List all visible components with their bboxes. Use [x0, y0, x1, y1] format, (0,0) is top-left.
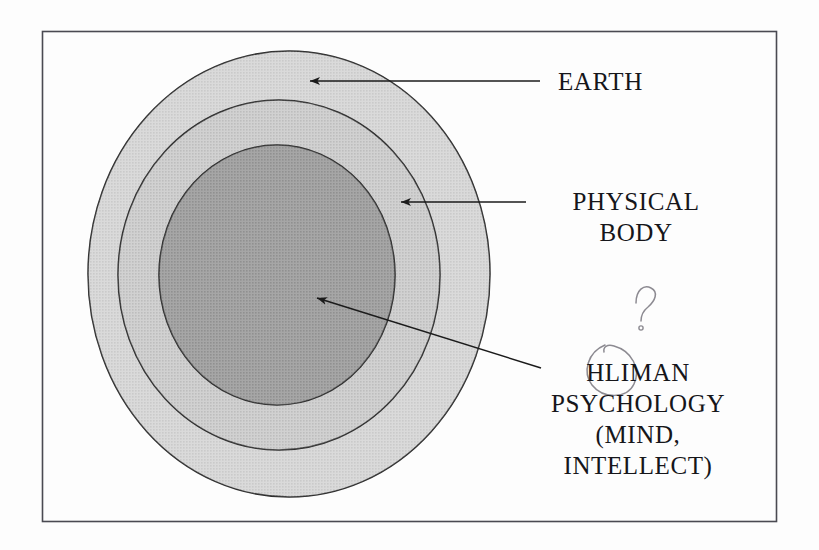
label-human-psychology-line3: (MIND, — [540, 419, 736, 450]
label-human-psychology: HLIMAN PSYCHOLOGY (MIND, INTELLECT) — [540, 357, 736, 481]
label-human-psychology-line2: PSYCHOLOGY — [540, 388, 736, 419]
figure-page: EARTH PHYSICAL BODY HLIMAN PSYCHOLOGY (M… — [0, 0, 819, 550]
label-physical-body: PHYSICAL BODY — [551, 186, 721, 248]
handwritten-question-dot-icon — [639, 326, 643, 330]
label-human-psychology-line1: HLIMAN — [540, 357, 736, 388]
human-psychology-ellipse-texture — [159, 145, 395, 405]
handwritten-question-mark-icon — [636, 287, 655, 321]
label-earth: EARTH — [558, 66, 643, 97]
label-human-psychology-line4: INTELLECT) — [540, 450, 736, 481]
label-physical-body-line2: BODY — [551, 217, 721, 248]
label-physical-body-line1: PHYSICAL — [551, 186, 721, 217]
